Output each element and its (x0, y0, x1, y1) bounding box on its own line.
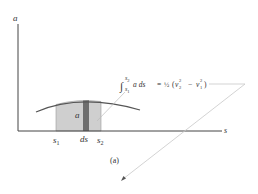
s2-label: s2 (97, 135, 104, 146)
work-energy-diagram: a s a s1 ds s2 (a) ∫ s2 s1 a ds = ½ ( v … (0, 0, 258, 194)
integral-upper-limit: s2 (125, 75, 130, 83)
y-axis-label: a (13, 13, 18, 23)
integrand: a ds (133, 80, 145, 89)
v1-subscript: 1 (200, 85, 202, 90)
close-paren: ) (204, 80, 207, 89)
v2-subscript: 2 (179, 85, 181, 90)
integral-lower-limit: s1 (125, 86, 130, 94)
equals-sign: = (157, 80, 161, 89)
figure-caption: (a) (110, 156, 119, 165)
v1-superscript: 2 (200, 78, 202, 83)
ds-label: ds (80, 134, 89, 144)
x-axis-label: s (224, 126, 227, 135)
one-half: ½ (164, 81, 169, 89)
ds-strip (83, 100, 89, 131)
area-label: a (75, 110, 80, 120)
s1-label: s1 (53, 135, 60, 146)
v2-superscript: 2 (179, 78, 181, 83)
work-energy-equation: ∫ s2 s1 a ds = ½ ( v 2 2 − v 2 1 ) (119, 75, 207, 94)
minus-sign: − (188, 80, 192, 89)
integral-sign-icon: ∫ (119, 80, 124, 93)
